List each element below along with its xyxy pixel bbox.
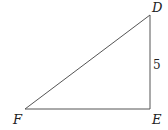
side-label-de: 5: [153, 58, 161, 72]
triangle-def: [25, 15, 150, 109]
triangle-diagram: D E F 5: [0, 0, 168, 130]
vertex-label-d: D: [151, 0, 163, 15]
vertex-label-f: F: [12, 112, 23, 127]
vertex-label-e: E: [151, 112, 162, 127]
